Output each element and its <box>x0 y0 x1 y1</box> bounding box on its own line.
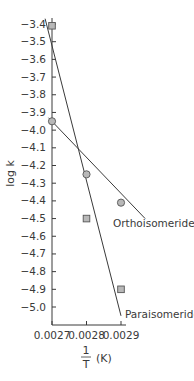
circle-marker <box>83 171 90 178</box>
paraisomeride-fit-line <box>45 19 121 316</box>
y-tick-label: −4.6 <box>21 230 47 242</box>
y-tick-label: −3.5 <box>21 35 47 47</box>
fit-lines <box>45 19 145 316</box>
square-marker <box>83 215 90 222</box>
y-tick-label: −3.6 <box>21 53 47 65</box>
x-tick-label: 0.0029 <box>103 329 140 341</box>
y-tick-label: −4.1 <box>21 141 47 153</box>
x-tick-label: 0.0027 <box>34 329 71 341</box>
square-marker <box>49 22 56 29</box>
y-tick-label: −4.0 <box>21 124 47 136</box>
series-labels: OrthoisomerideParaisomeride <box>113 217 194 320</box>
y-tick-label: −3.9 <box>21 106 47 118</box>
y-tick-label: −4.7 <box>21 247 47 259</box>
y-tick-label: −5.0 <box>21 301 47 313</box>
y-tick-label: −4.2 <box>21 159 47 171</box>
x-tick-label: 0.0028 <box>68 329 105 341</box>
arrhenius-chart: −3.4−3.5−3.6−3.7−3.8−3.9−4.0−4.1−4.2−4.3… <box>0 0 194 381</box>
y-tick-label: −3.4 <box>21 18 47 30</box>
y-tick-label: −4.3 <box>21 177 47 189</box>
y-tick-label: −4.8 <box>21 265 47 277</box>
y-tick-label: −4.4 <box>21 194 47 206</box>
y-tick-label: −4.5 <box>21 212 47 224</box>
y-tick-label: −3.8 <box>21 88 47 100</box>
orthoisomeride-fit-line <box>49 118 146 219</box>
square-marker <box>118 286 125 293</box>
circle-marker <box>48 118 55 125</box>
y-axis-title: log k <box>4 160 17 187</box>
y-tick-label: −4.9 <box>21 283 47 295</box>
y-tick-label: −3.7 <box>21 71 47 83</box>
paraisomeride-label: Paraisomeride <box>125 308 194 320</box>
x-axis-title-unit: (K) <box>96 352 112 365</box>
axes: −3.4−3.5−3.6−3.7−3.8−3.9−4.0−4.1−4.2−4.3… <box>4 18 139 372</box>
orthoisomeride-label: Orthoisomeride <box>113 217 194 229</box>
circle-marker <box>117 199 124 206</box>
x-axis-title-numerator: 1 <box>83 344 90 357</box>
x-axis-title-denominator: T <box>82 358 90 371</box>
